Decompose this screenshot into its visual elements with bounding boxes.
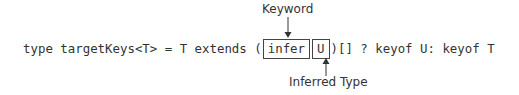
inferred-type-box: U bbox=[312, 39, 329, 59]
keyword-box: infer bbox=[263, 39, 310, 59]
code-line: type targetKeys<T> = T extends (inferU)[… bbox=[23, 39, 495, 59]
arrow-up-icon bbox=[321, 58, 331, 76]
arrow-down-icon bbox=[283, 17, 293, 39]
inferred-type-label: Inferred Type bbox=[289, 75, 368, 89]
keyword-label: Keyword bbox=[262, 2, 313, 16]
code-before: type targetKeys<T> = T extends ( bbox=[23, 41, 262, 56]
code-after: )[] ? keyof U: keyof T bbox=[331, 41, 495, 56]
